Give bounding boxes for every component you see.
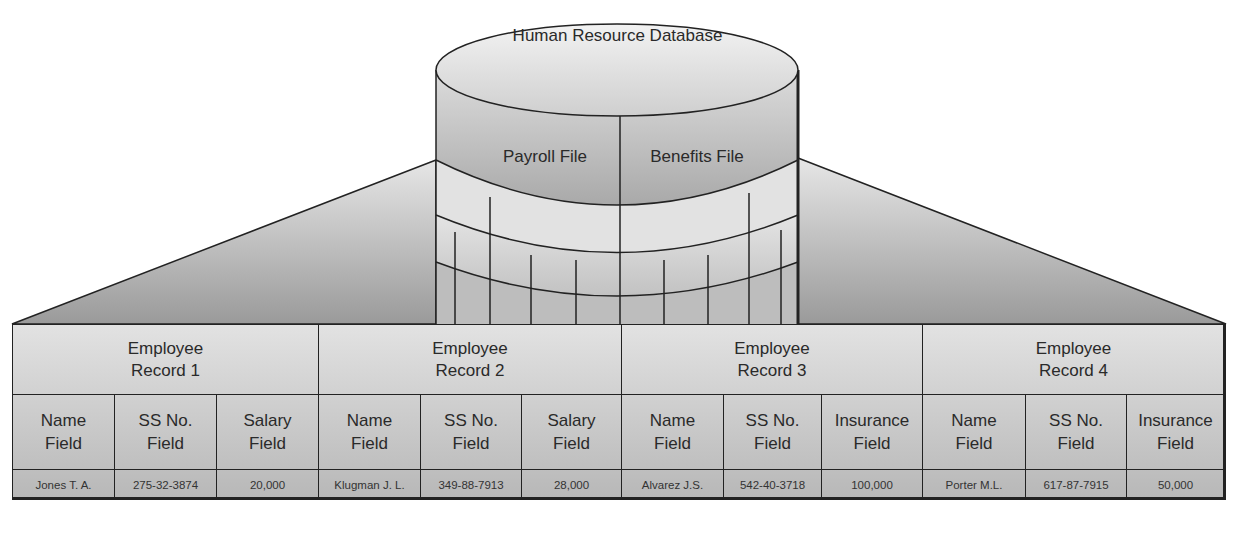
field-value: Alvarez J.S. bbox=[622, 470, 724, 498]
record-number: Record 3 bbox=[738, 360, 807, 382]
record-title: Employee bbox=[432, 338, 508, 360]
field-value: Porter M.L. bbox=[923, 470, 1026, 498]
employee-record-2: Employee Record 2 bbox=[319, 325, 622, 394]
record-number: Record 2 bbox=[436, 360, 505, 382]
field-header: InsuranceField bbox=[822, 395, 923, 469]
record-title: Employee bbox=[1036, 338, 1112, 360]
field-value: 617-87-7915 bbox=[1026, 470, 1127, 498]
field-header: SS No.Field bbox=[724, 395, 822, 469]
field-value: 50,000 bbox=[1127, 470, 1224, 498]
left-connector bbox=[12, 160, 436, 324]
payroll-file-label: Payroll File bbox=[470, 147, 620, 167]
field-header-row: NameField SS No.Field SalaryField NameFi… bbox=[13, 395, 1223, 470]
employee-records-table: Employee Record 1 Employee Record 2 Empl… bbox=[12, 324, 1226, 500]
field-value: Klugman J. L. bbox=[319, 470, 421, 498]
field-value: 28,000 bbox=[522, 470, 622, 498]
field-header: SS No.Field bbox=[421, 395, 522, 469]
field-value: 20,000 bbox=[217, 470, 319, 498]
field-values-row: Jones T. A. 275-32-3874 20,000 Klugman J… bbox=[13, 470, 1223, 498]
field-header: InsuranceField bbox=[1127, 395, 1224, 469]
field-value: 100,000 bbox=[822, 470, 923, 498]
field-header: NameField bbox=[13, 395, 115, 469]
field-header: SS No.Field bbox=[1026, 395, 1127, 469]
benefits-file-label: Benefits File bbox=[622, 147, 772, 167]
employee-record-3: Employee Record 3 bbox=[622, 325, 923, 394]
field-header: SS No.Field bbox=[115, 395, 217, 469]
field-header: SalaryField bbox=[217, 395, 319, 469]
records-header-row: Employee Record 1 Employee Record 2 Empl… bbox=[13, 325, 1223, 395]
field-value: 542-40-3718 bbox=[724, 470, 822, 498]
database-title: Human Resource Database bbox=[470, 26, 765, 46]
field-header: NameField bbox=[622, 395, 724, 469]
field-value: 349-88-7913 bbox=[421, 470, 522, 498]
record-number: Record 4 bbox=[1039, 360, 1108, 382]
field-value: 275-32-3874 bbox=[115, 470, 217, 498]
record-title: Employee bbox=[734, 338, 810, 360]
field-value: Jones T. A. bbox=[13, 470, 115, 498]
record-title: Employee bbox=[128, 338, 204, 360]
record-number: Record 1 bbox=[131, 360, 200, 382]
employee-record-1: Employee Record 1 bbox=[13, 325, 319, 394]
field-header: NameField bbox=[319, 395, 421, 469]
field-header: SalaryField bbox=[522, 395, 622, 469]
right-connector bbox=[798, 158, 1226, 324]
field-header: NameField bbox=[923, 395, 1026, 469]
employee-record-4: Employee Record 4 bbox=[923, 325, 1224, 394]
